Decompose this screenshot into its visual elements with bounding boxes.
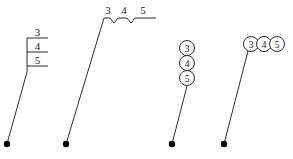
anchor-dot-2[interactable]: [63, 141, 69, 147]
anchor-dot-3[interactable]: [169, 141, 175, 147]
circle-label-v3: 5: [185, 74, 190, 84]
box-label-row-2: 4: [35, 40, 41, 52]
leader-line-4: [224, 51, 248, 144]
callout-variant-horizontal-circles[interactable]: 3 4 5: [221, 37, 285, 148]
circle-label-v1: 3: [185, 44, 190, 54]
anchor-dot-4[interactable]: [221, 141, 227, 147]
zigzag-label-3: 5: [140, 4, 146, 16]
circle-label-h1: 3: [249, 40, 254, 50]
zigzag-baseline-2: [104, 18, 156, 23]
callout-variant-vertical-circles[interactable]: 3 4 5: [169, 41, 195, 148]
leader-line-2: [66, 18, 104, 144]
circle-label-h3: 5: [275, 40, 280, 50]
zigzag-label-2: 4: [121, 4, 127, 16]
circle-label-v2: 4: [185, 59, 190, 69]
callout-variant-zigzag[interactable]: 3 4 5: [63, 4, 156, 147]
anchor-dot-1[interactable]: [4, 141, 10, 147]
figure-canvas: 3 4 5 3 4 5 3 4 5: [0, 0, 293, 159]
zigzag-label-1: 3: [105, 4, 111, 16]
leader-line-1: [7, 72, 27, 144]
callout-variant-stacked-box[interactable]: 3 4 5: [4, 26, 48, 147]
callout-styles-diagram: 3 4 5 3 4 5 3 4 5: [0, 0, 293, 159]
leader-line-3: [172, 86, 187, 144]
circle-label-h2: 4: [262, 40, 267, 50]
box-label-row-1: 3: [35, 26, 41, 38]
box-label-row-3: 5: [35, 54, 41, 66]
